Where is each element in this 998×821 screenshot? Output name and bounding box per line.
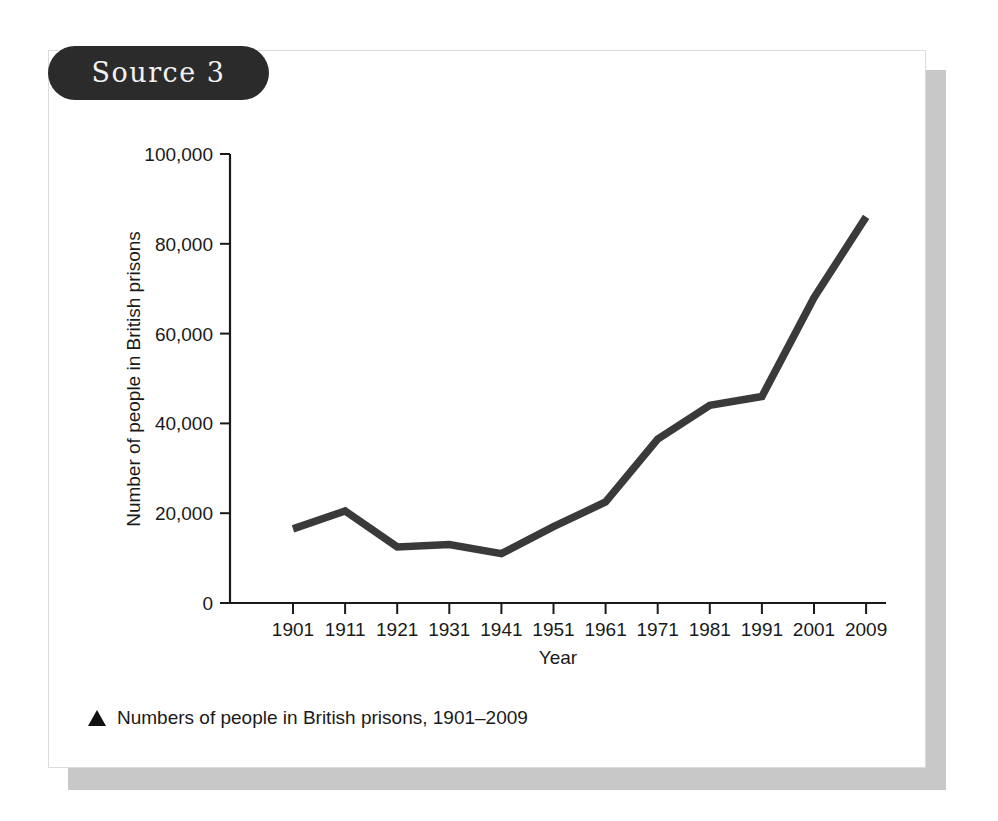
chart-caption-text: Numbers of people in British prisons, 19… bbox=[117, 707, 528, 729]
source-badge-label: Source 3 bbox=[92, 59, 226, 88]
source-badge: Source 3 bbox=[48, 46, 269, 100]
source-card bbox=[48, 50, 926, 768]
triangle-up-icon bbox=[88, 710, 106, 726]
chart-caption: Numbers of people in British prisons, 19… bbox=[88, 707, 528, 729]
